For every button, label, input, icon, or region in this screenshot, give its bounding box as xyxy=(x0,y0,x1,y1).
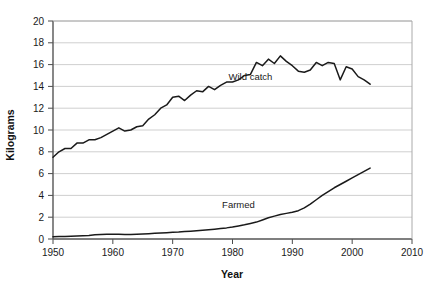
series-annotations: Wild catchFarmed xyxy=(222,71,272,211)
series-line-wild-catch xyxy=(53,56,370,157)
x-tick-label: 2010 xyxy=(401,247,424,258)
chart-figure: 1950196019701980199020002010 02468101214… xyxy=(0,0,433,294)
axis-ticks xyxy=(48,21,412,244)
x-tick-label: 2000 xyxy=(341,247,364,258)
y-axis-title: Kilograms xyxy=(4,109,16,161)
y-tick-label: 10 xyxy=(33,125,45,136)
y-tick-label: 12 xyxy=(33,103,45,114)
series-label-farmed: Farmed xyxy=(222,199,255,210)
line-chart: 1950196019701980199020002010 02468101214… xyxy=(0,0,433,294)
data-series xyxy=(53,56,370,237)
x-tick-label: 1970 xyxy=(162,247,185,258)
series-label-wild-catch: Wild catch xyxy=(229,71,273,82)
y-tick-label: 20 xyxy=(33,16,45,27)
y-tick-label: 6 xyxy=(38,168,44,179)
y-tick-labels: 02468101214161820 xyxy=(33,16,45,245)
y-tick-label: 8 xyxy=(38,146,44,157)
x-tick-label: 1960 xyxy=(102,247,125,258)
y-tick-label: 0 xyxy=(38,234,44,245)
y-tick-label: 18 xyxy=(33,37,45,48)
x-axis-title: Year xyxy=(221,268,243,280)
gridlines xyxy=(53,21,412,217)
x-tick-label: 1950 xyxy=(42,247,65,258)
x-tick-label: 1990 xyxy=(281,247,304,258)
x-tick-labels: 1950196019701980199020002010 xyxy=(42,247,424,258)
y-tick-label: 4 xyxy=(38,190,44,201)
x-tick-label: 1980 xyxy=(221,247,244,258)
series-line-farmed xyxy=(53,168,370,237)
y-tick-label: 14 xyxy=(33,81,45,92)
y-tick-label: 2 xyxy=(38,212,44,223)
y-tick-label: 16 xyxy=(33,59,45,70)
